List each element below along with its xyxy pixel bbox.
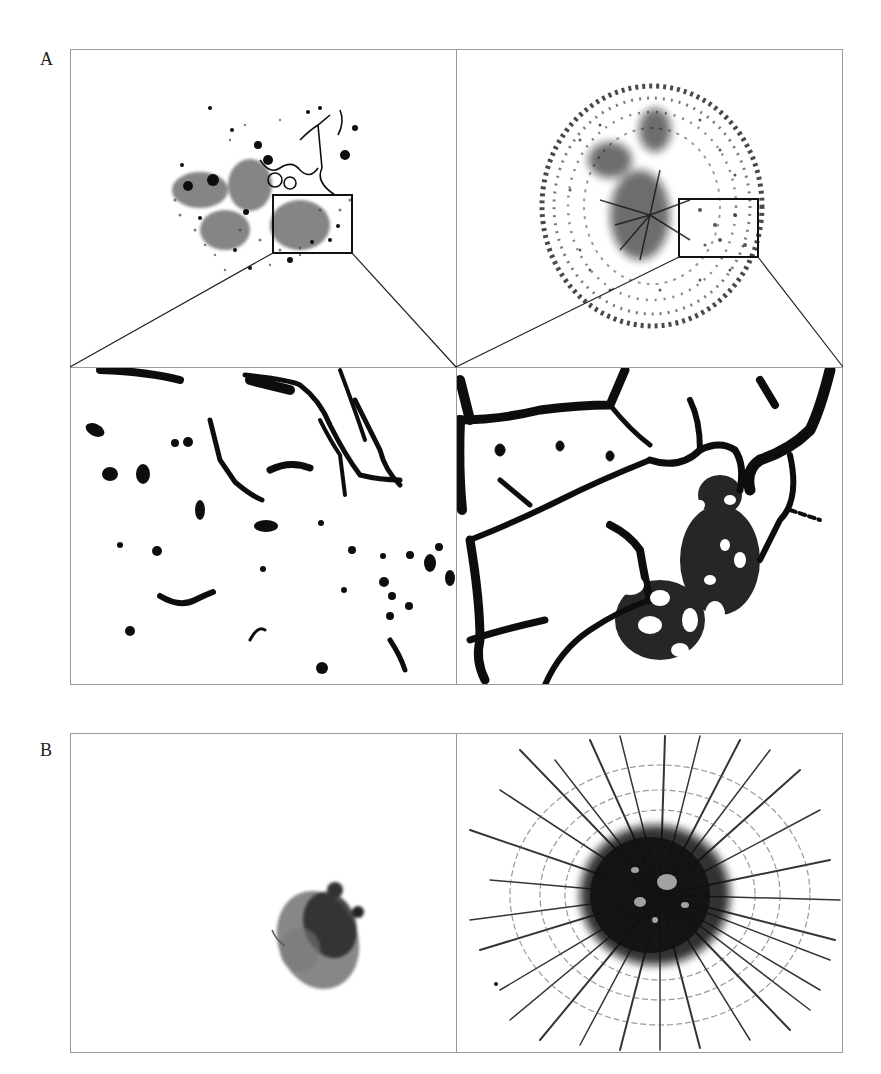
panel-b-left-image — [263, 879, 372, 1000]
figure-canvas — [0, 0, 881, 1074]
panel-b-right-image — [470, 736, 840, 1050]
panel-b — [71, 733, 843, 1053]
panel-a — [70, 49, 843, 685]
panel-a-top-left-image — [172, 106, 358, 271]
inset-box-right — [679, 199, 758, 257]
panel-a-bottom-left-image — [83, 370, 455, 674]
panel-a-bottom-right-image — [456, 370, 830, 685]
panel-a-top-right-image — [542, 86, 762, 326]
